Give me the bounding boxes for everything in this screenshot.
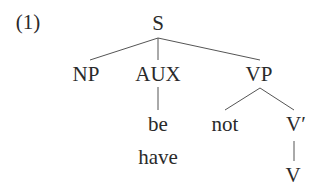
node-v: V: [285, 165, 300, 186]
node-s: S: [152, 13, 164, 34]
node-vp: VP: [246, 64, 273, 85]
node-aux: AUX: [135, 64, 181, 85]
branch-s-vp: [158, 38, 260, 60]
node-v-bar: V′: [286, 114, 306, 135]
example-number: (1): [16, 12, 41, 33]
branch-vp-vbar: [260, 88, 294, 110]
node-np: NP: [73, 64, 100, 85]
branch-vp-not: [225, 88, 260, 110]
leaf-be: be: [148, 114, 168, 135]
branch-s-np: [90, 38, 158, 60]
leaf-not: not: [212, 114, 239, 135]
leaf-have: have: [138, 147, 178, 168]
syntax-tree-diagram: (1) S NP AUX VP be not V′ have V: [0, 0, 320, 196]
